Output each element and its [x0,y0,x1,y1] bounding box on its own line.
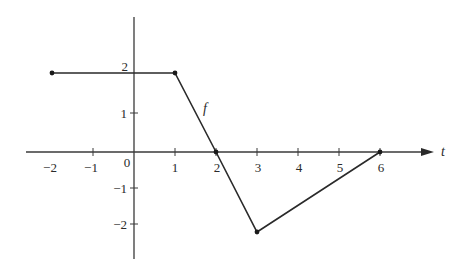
x-tick-label: 5 [337,160,344,175]
curve-point [214,150,219,155]
x-tick-label: 2 [214,160,221,175]
x-axis-arrow-icon [421,148,434,156]
x-tick-label: 3 [255,160,262,175]
x-tick-label: 4 [296,160,303,175]
y-tick-label: 1 [121,106,128,121]
x-tick-label: 6 [378,160,385,175]
x-tick-labels: −2 −1 0 1 2 3 4 5 6 [43,155,385,175]
curve-point [378,150,383,155]
x-tick-label: 1 [172,160,179,175]
y-tick-label: −2 [113,217,127,232]
x-axis-label: t [441,144,446,159]
y-tick-labels: 2 1 −1 −2 [113,59,128,232]
x-tick-label: −1 [84,160,98,175]
y-tick-label: 2 [122,59,129,74]
curve-label: f [203,101,209,116]
y-tick-label: −1 [113,181,127,196]
origin-label: 0 [124,155,131,170]
curve-point [50,71,55,76]
function-graph: −2 −1 0 1 2 3 4 5 6 2 1 −1 −2 t f [0,0,464,276]
x-tick-label: −2 [43,160,57,175]
curve-point [173,71,178,76]
curve-point [255,230,260,235]
